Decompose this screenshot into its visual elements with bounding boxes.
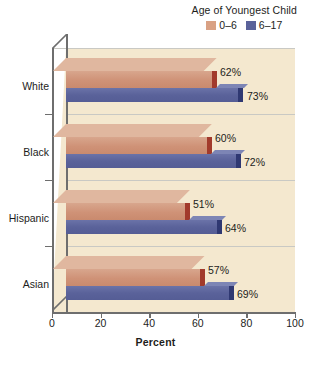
bar-chart: Age of Youngest Child 0–6 6–17 bbox=[0, 0, 311, 366]
value-label-asian-0-6: 57% bbox=[208, 264, 229, 276]
value-label-asian-6-17: 69% bbox=[237, 288, 258, 300]
y-tick-3 bbox=[45, 246, 52, 247]
plot-floor-wedge bbox=[52, 48, 66, 312]
chart-legend: Age of Youngest Child 0–6 6–17 bbox=[192, 4, 297, 31]
x-axis-title: Percent bbox=[0, 336, 311, 348]
bar-top-face bbox=[204, 282, 238, 286]
legend-label-6-17: 6–17 bbox=[259, 19, 282, 31]
bar-front-face bbox=[66, 137, 212, 154]
bar-end-cap bbox=[217, 220, 222, 234]
bar-top-face bbox=[53, 256, 205, 269]
y-axis-label-hispanic: Hispanic bbox=[9, 212, 49, 224]
value-label-black-0-6: 60% bbox=[215, 132, 236, 144]
bar-end-cap bbox=[238, 88, 243, 102]
value-label-hispanic-0-6: 51% bbox=[193, 198, 214, 210]
legend-swatch-icon-6-17 bbox=[246, 21, 256, 30]
bar-asian-0-6 bbox=[66, 269, 205, 286]
x-axis-label-40: 40 bbox=[129, 317, 169, 329]
x-axis-label-0: 0 bbox=[32, 317, 72, 329]
legend-items: 0–6 6–17 bbox=[192, 19, 297, 31]
bar-front-face bbox=[66, 269, 205, 286]
bar-asian-6-17 bbox=[66, 286, 234, 300]
bar-front-face bbox=[66, 71, 217, 88]
bar-top-face bbox=[211, 150, 245, 154]
value-label-white-6-17: 73% bbox=[247, 90, 268, 102]
legend-swatch-icon-0-6 bbox=[206, 21, 216, 30]
bar-top-face bbox=[53, 58, 217, 71]
axis-diagonal-top bbox=[52, 34, 68, 50]
bar-top-face bbox=[189, 216, 226, 220]
bar-front-face bbox=[66, 154, 241, 168]
x-axis-label-100: 100 bbox=[275, 317, 311, 329]
value-label-black-6-17: 72% bbox=[244, 156, 265, 168]
y-axis-front bbox=[52, 48, 54, 312]
bar-hispanic-6-17 bbox=[66, 220, 222, 234]
bar-top-face bbox=[53, 190, 190, 203]
bar-end-cap bbox=[229, 286, 234, 300]
x-axis-label-60: 60 bbox=[178, 317, 218, 329]
y-tick-2 bbox=[45, 180, 52, 181]
bar-front-face bbox=[66, 203, 190, 220]
legend-label-0-6: 0–6 bbox=[219, 19, 237, 31]
gridline-3 bbox=[66, 246, 295, 247]
bar-hispanic-0-6 bbox=[66, 203, 190, 220]
bar-front-face bbox=[66, 88, 243, 102]
gridline-2 bbox=[66, 180, 295, 181]
bar-end-cap bbox=[200, 269, 205, 286]
legend-item-0-6[interactable]: 0–6 bbox=[206, 19, 237, 31]
bar-white-6-17 bbox=[66, 88, 243, 102]
bar-white-0-6 bbox=[66, 71, 217, 88]
bar-black-0-6 bbox=[66, 137, 212, 154]
x-axis-label-80: 80 bbox=[226, 317, 266, 329]
bar-top-face bbox=[216, 84, 248, 88]
y-axis-label-black: Black bbox=[23, 146, 49, 158]
bar-front-face bbox=[66, 220, 222, 234]
y-axis-label-asian: Asian bbox=[23, 278, 49, 290]
bar-black-6-17 bbox=[66, 154, 241, 168]
y-tick-1 bbox=[45, 114, 52, 115]
bar-end-cap bbox=[185, 203, 190, 220]
legend-title: Age of Youngest Child bbox=[192, 4, 297, 16]
bar-end-cap bbox=[212, 71, 217, 88]
legend-item-6-17[interactable]: 6–17 bbox=[246, 19, 282, 31]
x-axis-line bbox=[52, 312, 295, 314]
bar-end-cap bbox=[207, 137, 212, 154]
y-axis-label-white: White bbox=[22, 80, 49, 92]
gridline-top bbox=[52, 48, 295, 49]
bar-top-face bbox=[53, 124, 212, 137]
value-label-white-0-6: 62% bbox=[220, 66, 241, 78]
bar-end-cap bbox=[236, 154, 241, 168]
bar-front-face bbox=[66, 286, 234, 300]
value-label-hispanic-6-17: 64% bbox=[225, 222, 246, 234]
x-axis-label-20: 20 bbox=[81, 317, 121, 329]
gridline-1 bbox=[66, 114, 295, 115]
